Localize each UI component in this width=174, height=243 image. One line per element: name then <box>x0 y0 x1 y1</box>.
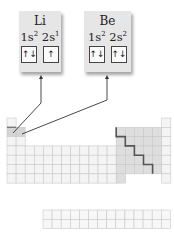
f-block-cell <box>52 210 61 219</box>
element-cell <box>107 165 116 174</box>
element-cell <box>16 137 25 146</box>
element-cell <box>89 146 98 155</box>
element-cell <box>153 155 162 164</box>
f-block-cell <box>143 219 152 228</box>
f-block-cell <box>116 219 125 228</box>
f-block-cell <box>89 210 98 219</box>
element-cell <box>53 146 62 155</box>
element-cell <box>80 174 89 183</box>
be-pointer-line <box>22 78 107 134</box>
f-block-cell <box>143 210 152 219</box>
element-cell <box>162 146 171 155</box>
element-cell <box>162 118 171 127</box>
element-cell <box>144 146 153 155</box>
element-cell <box>25 174 34 183</box>
element-cell <box>107 174 116 183</box>
f-block-cell <box>161 210 170 219</box>
element-cell <box>16 174 25 183</box>
element-cell <box>116 137 125 146</box>
element-cell <box>116 155 125 164</box>
element-cell <box>134 155 143 164</box>
element-cell <box>25 155 34 164</box>
element-cell <box>98 174 107 183</box>
element-cell <box>162 174 171 183</box>
element-cell <box>71 174 80 183</box>
element-cell <box>16 165 25 174</box>
element-cell <box>53 155 62 164</box>
element-cell <box>43 165 52 174</box>
element-cell <box>107 146 116 155</box>
f-block-cell <box>125 210 134 219</box>
element-cell <box>43 155 52 164</box>
element-cell <box>71 165 80 174</box>
f-block-cell <box>107 219 116 228</box>
element-cell <box>162 137 171 146</box>
f-block-cell <box>134 219 143 228</box>
element-cell <box>98 165 107 174</box>
element-cell <box>98 146 107 155</box>
li-pointer-line <box>13 78 41 133</box>
element-cell <box>134 127 143 136</box>
element-cell <box>53 165 62 174</box>
f-block-cell <box>98 219 107 228</box>
f-block-cell <box>107 210 116 219</box>
f-block-cell <box>116 210 125 219</box>
element-cell <box>98 155 107 164</box>
element-cell <box>125 127 134 136</box>
element-cell <box>25 165 34 174</box>
f-block-cell <box>52 219 61 228</box>
element-cell <box>125 165 134 174</box>
element-cell <box>34 174 43 183</box>
element-cell <box>80 165 89 174</box>
element-cell <box>144 165 153 174</box>
element-cell <box>89 174 98 183</box>
element-cell <box>80 146 89 155</box>
periodic-table <box>0 0 174 243</box>
f-block-cell <box>89 219 98 228</box>
element-cell <box>7 155 16 164</box>
element-cell <box>80 155 89 164</box>
element-cell <box>34 146 43 155</box>
f-block-cell <box>152 210 161 219</box>
f-block-cell <box>70 219 79 228</box>
f-block-cell <box>98 210 107 219</box>
element-cell <box>116 146 125 155</box>
f-block-cell <box>152 219 161 228</box>
li-arrowhead-icon <box>39 75 43 79</box>
f-block-cell <box>43 210 52 219</box>
element-cell <box>134 146 143 155</box>
element-cell <box>153 137 162 146</box>
element-cell <box>116 127 125 136</box>
element-cell <box>162 155 171 164</box>
element-cell <box>89 155 98 164</box>
element-cell <box>107 155 116 164</box>
element-cell <box>153 165 162 174</box>
element-cell <box>7 165 16 174</box>
element-cell <box>144 155 153 164</box>
element-cell <box>116 174 125 183</box>
element-cell <box>144 127 153 136</box>
be-arrowhead-icon <box>105 75 109 79</box>
f-block-cell <box>79 210 88 219</box>
element-cell <box>7 137 16 146</box>
f-block-cell <box>61 219 70 228</box>
element-cell <box>153 146 162 155</box>
element-cell <box>125 146 134 155</box>
f-block-cell <box>43 219 52 228</box>
element-cell <box>62 165 71 174</box>
element-cell <box>71 155 80 164</box>
element-cell <box>34 155 43 164</box>
element-cell <box>134 165 143 174</box>
element-cell <box>62 174 71 183</box>
element-cell <box>53 174 62 183</box>
f-block-cell <box>61 210 70 219</box>
f-block-cell <box>125 219 134 228</box>
element-cell <box>153 127 162 136</box>
f-block-cell <box>134 210 143 219</box>
element-cell <box>7 118 16 127</box>
element-cell <box>116 165 125 174</box>
cell-li <box>7 127 16 136</box>
element-cell <box>62 155 71 164</box>
f-block-cell <box>161 219 170 228</box>
element-cell <box>162 127 171 136</box>
